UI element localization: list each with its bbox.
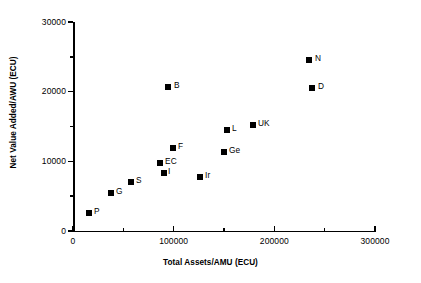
data-point-label: B: [174, 81, 180, 90]
data-point-marker: [309, 85, 314, 90]
y-axis-spine: [73, 22, 75, 232]
x-tick-label: 300000: [345, 237, 405, 246]
x-tick-major: [274, 226, 275, 231]
data-point-marker: [161, 170, 166, 175]
data-point-label: I: [168, 167, 170, 176]
data-point-marker: [306, 57, 311, 62]
x-tick-label: 0: [43, 237, 103, 246]
data-point-marker: [165, 84, 170, 89]
data-point-marker: [86, 210, 91, 215]
chart-figure: 0100002000030000 0100000200000300000 PGS…: [0, 0, 421, 283]
x-tick-major: [374, 226, 375, 231]
data-point-marker: [170, 145, 175, 150]
data-point-label: G: [116, 187, 123, 196]
data-point-marker: [221, 149, 226, 154]
data-point-label: N: [315, 54, 321, 63]
data-point-label: UK: [258, 119, 270, 128]
x-tick-major: [173, 226, 174, 231]
data-point-label: D: [318, 82, 324, 91]
data-point-label: F: [178, 142, 183, 151]
y-tick-label: 10000: [42, 157, 66, 166]
y-tick-minor: [70, 56, 74, 57]
y-tick-label: 0: [61, 227, 66, 236]
data-point-marker: [224, 127, 229, 132]
y-tick-minor: [70, 195, 74, 196]
y-tick-major: [68, 91, 73, 92]
y-tick-minor: [70, 126, 74, 127]
data-point-marker: [250, 122, 255, 127]
data-point-label: Ge: [229, 146, 240, 155]
y-tick-major: [68, 21, 73, 22]
x-tick-minor: [324, 228, 325, 232]
data-point-label: P: [94, 207, 100, 216]
data-point-label: EC: [165, 157, 177, 166]
y-tick-major: [68, 161, 73, 162]
data-point-label: Ir: [205, 171, 210, 180]
x-tick-label: 100000: [144, 237, 204, 246]
data-point-label: L: [232, 124, 237, 133]
x-tick-minor: [223, 228, 224, 232]
x-tick-major: [72, 226, 73, 231]
x-axis-title: Total Assets/AMU (ECU): [0, 258, 421, 267]
x-tick-label: 200000: [244, 237, 304, 246]
y-axis-title: Net Value Added/AWU (ECU): [9, 38, 18, 188]
data-point-label: S: [136, 176, 142, 185]
x-tick-minor: [123, 228, 124, 232]
y-tick-label: 20000: [42, 87, 66, 96]
data-point-marker: [197, 174, 202, 179]
data-point-marker: [108, 190, 113, 195]
data-point-marker: [157, 160, 162, 165]
y-tick-label: 30000: [42, 18, 66, 27]
data-point-marker: [128, 179, 133, 184]
